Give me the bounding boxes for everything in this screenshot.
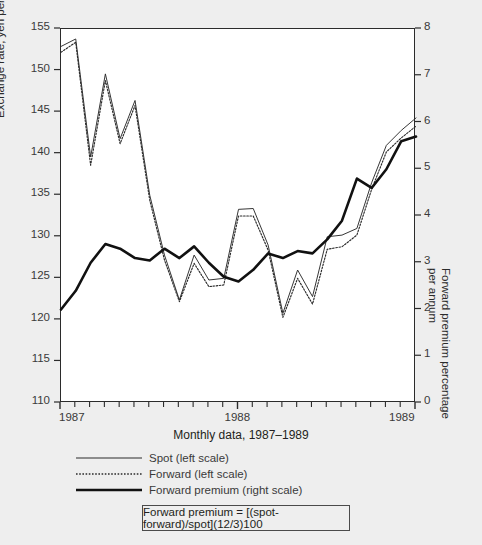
right-tick-label-3: 3 [424,254,430,266]
left-tick-label-155: 155 [0,20,50,32]
right-tick-label-7: 7 [424,67,430,79]
x-tick-label-1989: 1989 [389,411,415,423]
x-tick-label-1987: 1987 [59,411,85,423]
left-tick-label-125: 125 [0,269,50,281]
legend-item-2: Forward premium (right scale) [76,482,302,498]
legend-label-1: Forward (left scale) [149,468,247,480]
right-tick-label-6: 6 [424,114,430,126]
left-tick-label-140: 140 [0,145,50,157]
legend-swatch-1 [76,468,142,480]
left-tick-label-150: 150 [0,62,50,74]
right-tick-label-2: 2 [424,301,430,313]
legend-item-0: Spot (left scale) [76,450,302,466]
x-axis-caption: Monthly data, 1987–1989 [0,428,482,442]
right-tick-label-8: 8 [424,20,430,32]
legend-item-1: Forward (left scale) [76,466,302,482]
left-tick-label-145: 145 [0,103,50,115]
chart-legend: Spot (left scale)Forward (left scale)For… [76,450,302,498]
right-tick-label-1: 1 [424,347,430,359]
left-tick-label-130: 130 [0,228,50,240]
legend-swatch-2 [76,484,142,496]
formula-text: Forward premium = [(spot-forward)/spot](… [143,506,349,530]
right-tick-label-0: 0 [424,394,430,406]
right-tick-label-4: 4 [424,207,430,219]
figure-container: Exchange rate, yen per U.S. dollar Forwa… [0,0,482,545]
right-tick-label-5: 5 [424,160,430,172]
legend-label-2: Forward premium (right scale) [149,484,302,496]
legend-label-0: Spot (left scale) [149,452,229,464]
formula-box: Forward premium = [(spot-forward)/spot](… [142,505,350,531]
x-tick-label-1988: 1988 [225,411,251,423]
left-tick-label-110: 110 [0,394,50,406]
legend-swatch-0 [76,452,142,464]
left-tick-label-120: 120 [0,311,50,323]
left-tick-label-135: 135 [0,186,50,198]
left-tick-label-115: 115 [0,352,50,364]
